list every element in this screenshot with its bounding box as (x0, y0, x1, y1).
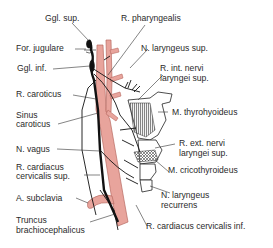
label-r-int-nervi-2: laryngei sup. (160, 74, 209, 84)
cricothyroid-muscle (134, 150, 158, 162)
label-r-pharyngealis: R. pharyngealis (121, 14, 181, 24)
label-ggl-inf: Ggl. inf. (17, 64, 47, 74)
label-r-ext-nervi-2: laryngei sup. (179, 149, 228, 159)
label-m-thyrohyoideus: M. thyrohyoideus (172, 108, 237, 118)
vagus-nerve-diagram: Ggl. sup. For. jugulare Ggl. inf. R. car… (0, 0, 273, 248)
label-truncus-2: brachiocephalicus (16, 226, 85, 236)
label-n-laryngeus-recurrens-2: recurrens (161, 201, 197, 211)
label-r-caroticus: R. caroticus (16, 90, 61, 100)
label-sinus-caroticus-2: caroticus (16, 120, 50, 130)
label-m-cricothyroideus: M. cricothyroideus (168, 166, 238, 176)
label-for-jugulare: For. jugulare (16, 44, 64, 54)
label-n-laryngeus-sup: N. laryngeus sup. (141, 44, 208, 54)
label-r-cardiacus-sup-2: cervicalis sup. (16, 172, 70, 182)
label-r-cardiacus-inf: R. cardiacus cervicalis inf. (146, 222, 245, 232)
label-a-subclavia: A. subclavia (16, 194, 62, 204)
label-ggl-sup: Ggl. sup. (45, 14, 79, 24)
label-n-vagus: N. vagus (16, 145, 50, 155)
